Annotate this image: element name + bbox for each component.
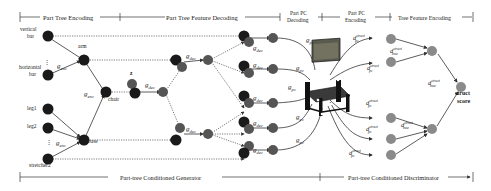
encoder-nodes: [43, 31, 112, 165]
section-generator: Part-tree Conditioned Generator: [120, 174, 202, 181]
svg-text:gdec: gdec: [253, 44, 263, 53]
node-arm-in: [177, 62, 187, 72]
section-part-tree-encoding: Part Tree Encoding: [43, 14, 94, 21]
section-part-pc-encoding-line1: Part PC: [348, 10, 365, 16]
node-vertical-bar: [43, 31, 54, 42]
svg-text:gpc: gpc: [296, 136, 304, 145]
leaf-labels: vertical bar horizontal bar ⋮ leg1 leg2 …: [19, 26, 52, 168]
svg-text:dstructtree: dstructtree: [428, 79, 441, 88]
label-chair: chair: [108, 96, 119, 102]
diagram-stage: Part Tree Encoding Part Tree Feature Dec…: [0, 0, 491, 191]
svg-text:gdec: gdec: [253, 94, 263, 103]
svg-text:dstructpc: dstructpc: [367, 64, 380, 73]
node-chair-feat: [130, 88, 141, 99]
label-arm: arm: [78, 43, 87, 49]
node-arm-dec: [203, 55, 213, 65]
section-discriminator: Part-tree Conditioned Discriminator: [348, 174, 440, 181]
node-base-skip: [171, 135, 182, 146]
svg-text:dstructpc: dstructpc: [366, 125, 379, 134]
svg-text:gpc: gpc: [306, 36, 314, 45]
label-base: base: [88, 138, 98, 144]
output-struct-label: struct: [455, 90, 470, 96]
svg-text:gdec: gdec: [253, 119, 263, 128]
section-part-pc-decoding-line2: Decoding: [287, 17, 309, 23]
svg-text:dstructtree: dstructtree: [401, 121, 414, 130]
label-horizontal: horizontal: [19, 64, 42, 70]
node-chair-dec: [158, 87, 168, 97]
output-score-label: score: [457, 98, 471, 104]
svg-text:genc: genc: [56, 139, 66, 148]
section-part-pc-decoding-line1: Part PC: [290, 10, 307, 16]
g-enc-labels: genc genc genc: [56, 62, 94, 148]
svg-text:gdec: gdec: [145, 81, 155, 90]
ellipsis-top: ⋮: [44, 59, 50, 65]
architecture-diagram: Part Tree Encoding Part Tree Feature Dec…: [0, 0, 491, 191]
label-horizontal-bar: bar: [29, 71, 36, 77]
label-vertical: vertical: [20, 26, 37, 32]
svg-text:gdec: gdec: [253, 61, 263, 70]
node-leg1: [43, 104, 54, 115]
label-stretcher2: stretcher2: [29, 162, 51, 168]
node-leg2: [43, 123, 54, 134]
section-part-tree-feature-decoding: Part Tree Feature Decoding: [166, 14, 238, 21]
label-vertical-bar: bar: [27, 33, 34, 39]
section-tree-feature-encoding: Tree Feature Encoding: [398, 15, 451, 21]
svg-text:gdec: gdec: [253, 146, 263, 155]
svg-text:genc: genc: [57, 62, 67, 71]
node-base-in: [175, 123, 185, 133]
skip-connections: [48, 36, 244, 159]
node-arm: [79, 55, 90, 66]
svg-text:gdec: gdec: [186, 52, 196, 61]
label-z: z: [130, 70, 133, 76]
svg-text:dstructpc: dstructpc: [366, 99, 379, 108]
svg-text:dstructpc: dstructpc: [349, 149, 362, 158]
node-horizontal-bar: [43, 70, 54, 81]
node-base-dec: [203, 129, 213, 139]
svg-text:gdec: gdec: [186, 125, 196, 134]
svg-text:gpc: gpc: [296, 64, 304, 73]
svg-text:gpc: gpc: [296, 113, 304, 122]
label-leg2: leg2: [27, 123, 37, 129]
svg-text:gpc: gpc: [288, 83, 296, 92]
node-z: [127, 79, 137, 89]
label-leg1: leg1: [27, 105, 37, 111]
svg-text:dstructtree: dstructtree: [390, 47, 403, 56]
ellipsis-bottom: ⋮: [46, 139, 52, 145]
svg-text:genc: genc: [84, 90, 94, 99]
section-part-pc-encoding-line2: Encoding: [345, 17, 366, 23]
